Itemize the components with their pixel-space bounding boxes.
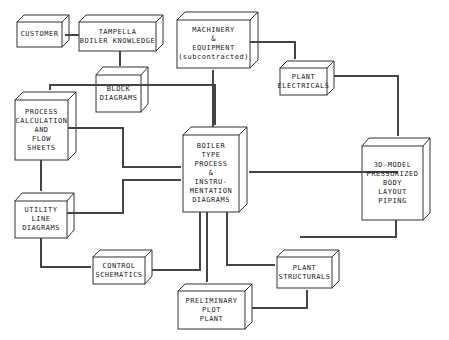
- node-block: BLOCKDIAGRAMS: [96, 75, 141, 112]
- node-label: BLOCK: [107, 85, 131, 94]
- node-label: SHEETS: [27, 144, 55, 153]
- node-label: PRESSURIZED: [367, 170, 419, 179]
- node-label: CALCULATION: [16, 117, 68, 126]
- node-label: (subcontracted): [178, 53, 249, 62]
- node-label: ELECTRICALS: [278, 82, 330, 91]
- node-electricals: PLANTELECTRICALS: [280, 68, 327, 95]
- node-label: PROCESS: [25, 108, 58, 117]
- node-plot: PRELIMINARYPLOTPLANT: [178, 291, 245, 329]
- node-label: &: [211, 35, 216, 44]
- node-label: PRELIMINARY: [186, 297, 238, 306]
- node-tampella: TAMPELLABOILER KNOWLEDGE: [79, 22, 156, 51]
- node-label: AND: [34, 126, 48, 135]
- node-label: PIPING: [378, 197, 406, 206]
- node-label: PLOT: [202, 306, 221, 315]
- node-label: PLANT: [200, 315, 224, 324]
- node-label: TAMPELLA: [99, 28, 137, 37]
- node-label: STRUCTURALS: [279, 273, 331, 282]
- node-label: 3D-MODEL: [374, 161, 412, 170]
- node-label: DIAGRAMS: [100, 94, 138, 103]
- node-label: LINE: [32, 215, 51, 224]
- node-label: BODY: [383, 179, 402, 188]
- node-label: DIAGRAMS: [192, 196, 230, 205]
- node-label: BOILER: [197, 142, 225, 151]
- node-machinery: MACHINERY&EQUIPMENT(subcontracted): [177, 20, 250, 68]
- node-label: BOILER KNOWLEDGE: [80, 37, 155, 46]
- node-label: MACHINERY: [192, 26, 234, 35]
- node-label: &: [209, 169, 214, 178]
- node-label: DIAGRAMS: [22, 224, 60, 233]
- node-label: PLANT: [293, 264, 317, 273]
- node-label: TYPE: [202, 151, 221, 160]
- node-label: SCHEMATICS: [95, 271, 142, 280]
- node-control: CONTROLSCHEMATICS: [93, 257, 145, 284]
- node-utility: UTILITYLINEDIAGRAMS: [15, 201, 67, 238]
- node-label: LAYOUT: [378, 188, 406, 197]
- diagram-canvas: CUSTOMER TAMPELLABOILER KNOWLEDGE MACHIN…: [0, 0, 449, 340]
- node-label: INSTRU-: [194, 178, 227, 187]
- node-customer: CUSTOMER: [17, 22, 62, 47]
- node-label: CONTROL: [102, 262, 135, 271]
- node-label: EQUIPMENT: [192, 44, 234, 53]
- node-label: PROCESS: [194, 160, 227, 169]
- node-label: CUSTOMER: [21, 30, 59, 39]
- node-label: MENTATION: [190, 187, 232, 196]
- node-label: PLANT: [292, 73, 316, 82]
- node-structurals: PLANTSTRUCTURALS: [277, 257, 332, 288]
- node-boiler: BOILERTYPEPROCESS&INSTRU-MENTATIONDIAGRA…: [183, 135, 239, 212]
- node-label: FLOW: [32, 135, 51, 144]
- node-model: 3D-MODELPRESSURIZEDBODYLAYOUTPIPING: [362, 146, 423, 220]
- node-label: UTILITY: [24, 206, 57, 215]
- node-process: PROCESSCALCULATIONANDFLOWSHEETS: [15, 100, 68, 160]
